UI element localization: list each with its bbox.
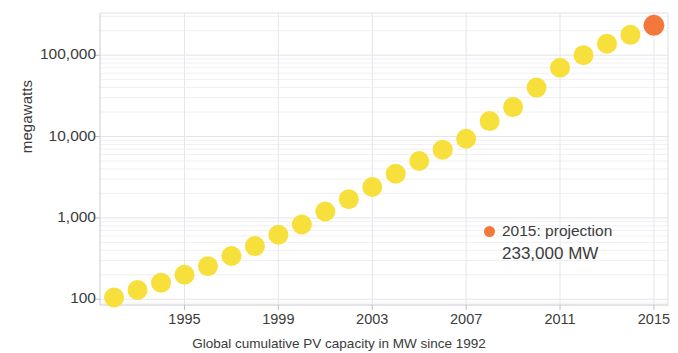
data-point (292, 214, 312, 234)
projection-legend: 2015: projection 233,000 MW (484, 222, 654, 264)
data-point (151, 273, 171, 293)
pv-capacity-chart: megawatts 1001,00010,000100,000 19951999… (0, 0, 678, 353)
data-point (433, 140, 453, 160)
data-point (198, 256, 218, 276)
data-point (527, 78, 547, 98)
data-point (643, 15, 664, 36)
data-point (175, 265, 195, 285)
legend-row-projection: 2015: projection (484, 222, 654, 240)
x-axis-tick-label: 2011 (530, 311, 590, 327)
data-point (597, 34, 617, 54)
x-axis-tick-label: 1995 (154, 311, 214, 327)
data-point (574, 45, 594, 65)
data-point (339, 189, 359, 209)
data-point (315, 201, 335, 221)
data-point (386, 164, 406, 184)
y-axis-tick-label: 100 (4, 289, 96, 307)
data-point (550, 58, 570, 78)
legend-projection-label: 2015: projection (502, 222, 612, 240)
chart-plot-area (0, 0, 678, 353)
x-axis-tick-label: 2007 (436, 311, 496, 327)
data-point (268, 225, 288, 245)
x-axis-tick-label: 2003 (342, 311, 402, 327)
y-axis-tick-label: 100,000 (4, 45, 96, 63)
x-axis-tick-label: 2015 (624, 311, 678, 327)
data-point (409, 151, 429, 171)
legend-projection-value: 233,000 MW (484, 244, 654, 264)
data-point (362, 177, 382, 197)
x-axis-tick-label: 1999 (248, 311, 308, 327)
projection-marker-icon (484, 226, 495, 237)
data-point (245, 236, 265, 256)
data-point (503, 97, 523, 117)
data-point (128, 280, 148, 300)
y-axis-tick-label: 1,000 (4, 208, 96, 226)
data-point (620, 25, 640, 45)
data-point (456, 129, 476, 149)
data-point (480, 111, 500, 131)
data-point (104, 288, 124, 308)
data-point (221, 246, 241, 266)
y-axis-title: megawatts (18, 57, 35, 177)
y-axis-tick-label: 10,000 (4, 127, 96, 145)
x-axis-caption: Global cumulative PV capacity in MW sinc… (0, 336, 678, 351)
